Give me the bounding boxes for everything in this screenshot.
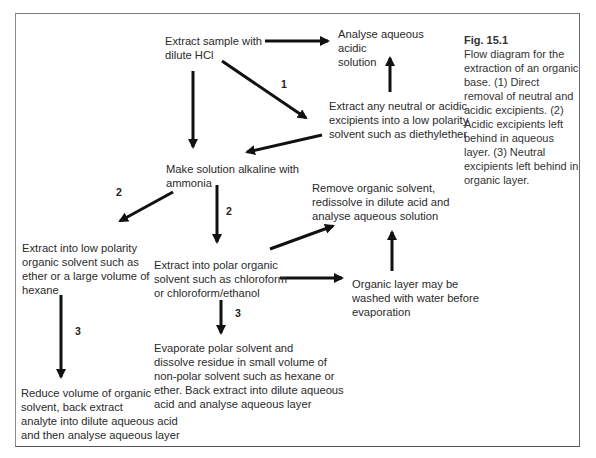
caption-text: Flow diagram for the extraction of an or…: [464, 48, 578, 186]
figure-caption: Fig. 15.1 Flow diagram for the extractio…: [464, 33, 580, 187]
node-organic-wash: Organic layer may be washed with water b…: [352, 277, 479, 319]
node-make-alkaline: Make solution alkaline with ammonia: [166, 162, 299, 190]
node-evaporate-polar: Evaporate polar solvent and dissolve res…: [154, 341, 344, 411]
node-extract-hcl: Extract sample with dilute HCl: [165, 34, 262, 62]
route-label-1: 1: [281, 78, 287, 90]
node-reduce-volume: Reduce volume of organic solvent, back e…: [21, 386, 180, 442]
route-label-3-mid: 3: [235, 307, 241, 319]
route-label-2-left: 2: [116, 186, 122, 198]
node-extract-polar: Extract into polar organic solvent such …: [154, 258, 287, 300]
arrow-neutral-to-alkaline: [247, 135, 322, 152]
route-label-2-down: 2: [226, 205, 232, 217]
arrow-polar-to-remove: [270, 226, 333, 249]
arrow-route1: [222, 61, 306, 118]
caption-title: Fig. 15.1: [464, 33, 580, 47]
node-analyse-acidic: Analyse aqueous acidic solution: [338, 27, 424, 69]
node-remove-organic: Remove organic solvent, redissolve in di…: [312, 181, 449, 223]
node-extract-low-polarity: Extract into low polarity organic solven…: [22, 241, 149, 297]
node-extract-neutral: Extract any neutral or acidic excipients…: [329, 99, 468, 141]
arrow-route2-left: [120, 192, 173, 221]
route-label-3-left: 3: [75, 325, 81, 337]
